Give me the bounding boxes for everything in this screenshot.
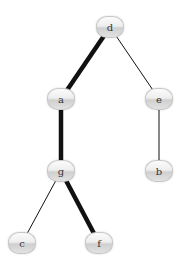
node-label: b bbox=[156, 166, 162, 177]
tree-edges bbox=[0, 0, 183, 264]
node-label: f bbox=[97, 238, 101, 249]
tree-node-c: c bbox=[8, 232, 36, 254]
tree-node-g: g bbox=[47, 160, 75, 182]
node-label: g bbox=[58, 166, 64, 177]
tree-node-d: d bbox=[96, 16, 124, 38]
node-label: e bbox=[156, 94, 162, 105]
tree-node-b: b bbox=[145, 160, 173, 182]
tree-node-e: e bbox=[145, 88, 173, 110]
tree-node-f: f bbox=[85, 232, 113, 254]
node-label: c bbox=[19, 238, 25, 249]
tree-diagram: d a e g b c f bbox=[0, 0, 183, 264]
node-label: a bbox=[58, 94, 64, 105]
node-label: d bbox=[107, 22, 113, 33]
tree-node-a: a bbox=[47, 88, 75, 110]
